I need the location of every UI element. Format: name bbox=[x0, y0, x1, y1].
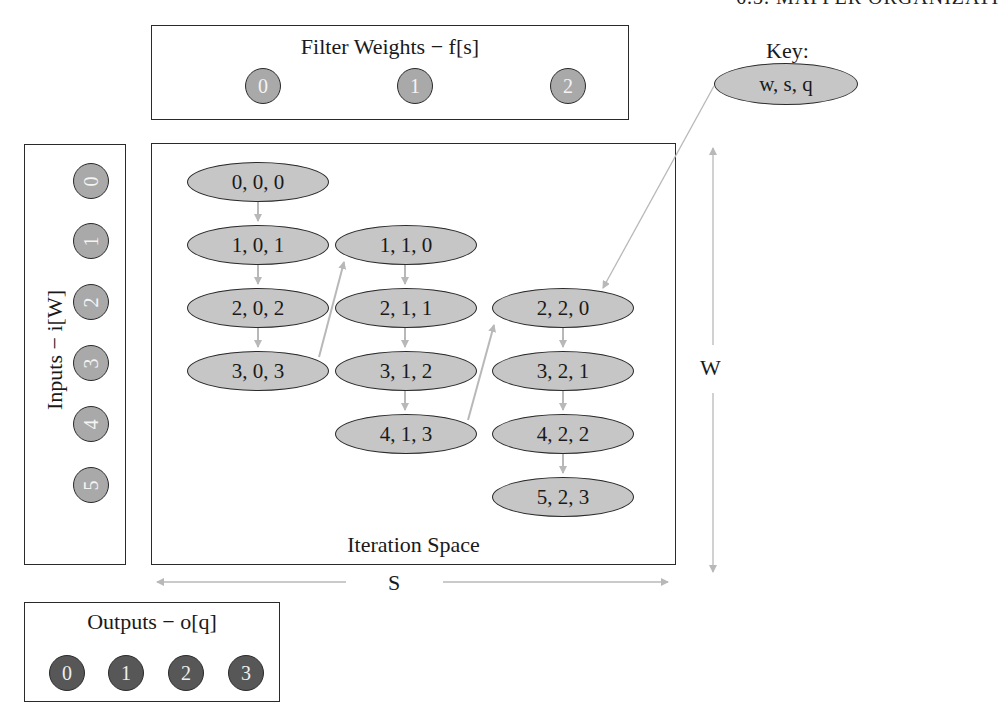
iteration-node: 2, 2, 0 bbox=[492, 288, 634, 328]
output-1: 1 bbox=[108, 655, 144, 691]
input-1: 1 bbox=[73, 223, 109, 259]
filter-weight-2: 2 bbox=[550, 68, 586, 104]
input-0: 0 bbox=[73, 163, 109, 199]
iteration-node: 4, 1, 3 bbox=[335, 414, 477, 454]
page-header: 6.3. MAPPER ORGANIZATI bbox=[736, 0, 999, 9]
filter-weight-1: 1 bbox=[397, 68, 433, 104]
input-4: 4 bbox=[73, 406, 109, 442]
output-0: 0 bbox=[49, 655, 85, 691]
filter-weights-box: Filter Weights − f[s] 0 1 2 bbox=[151, 25, 629, 120]
w-axis-label: W bbox=[700, 355, 721, 381]
iteration-node: 1, 1, 0 bbox=[335, 225, 477, 265]
iteration-node: 5, 2, 3 bbox=[492, 477, 634, 517]
input-2: 2 bbox=[73, 284, 109, 320]
inputs-title: Inputs − i[W] bbox=[42, 280, 68, 420]
iteration-node: 3, 1, 2 bbox=[335, 351, 477, 391]
outputs-title: Outputs − o[q] bbox=[25, 609, 279, 635]
iteration-node: 0, 0, 0 bbox=[187, 162, 329, 202]
filter-weights-title: Filter Weights − f[s] bbox=[152, 34, 628, 60]
key-title: Key: bbox=[766, 38, 809, 64]
input-3: 3 bbox=[73, 345, 109, 381]
iteration-node: 2, 1, 1 bbox=[335, 288, 477, 328]
key-node: w, s, q bbox=[714, 63, 858, 105]
iteration-node: 3, 2, 1 bbox=[492, 351, 634, 391]
iteration-node: 4, 2, 2 bbox=[492, 414, 634, 454]
outputs-box: Outputs − o[q] 0 1 2 3 bbox=[24, 602, 280, 702]
iteration-space-title: Iteration Space bbox=[152, 532, 675, 558]
iteration-node: 2, 0, 2 bbox=[187, 288, 329, 328]
input-5: 5 bbox=[73, 467, 109, 503]
filter-weight-0: 0 bbox=[245, 68, 281, 104]
output-2: 2 bbox=[168, 655, 204, 691]
s-axis-label: S bbox=[388, 570, 400, 596]
inputs-box: Inputs − i[W] 0 1 2 3 4 5 bbox=[24, 144, 126, 565]
iteration-node: 3, 0, 3 bbox=[187, 351, 329, 391]
output-3: 3 bbox=[228, 655, 264, 691]
iteration-node: 1, 0, 1 bbox=[187, 225, 329, 265]
